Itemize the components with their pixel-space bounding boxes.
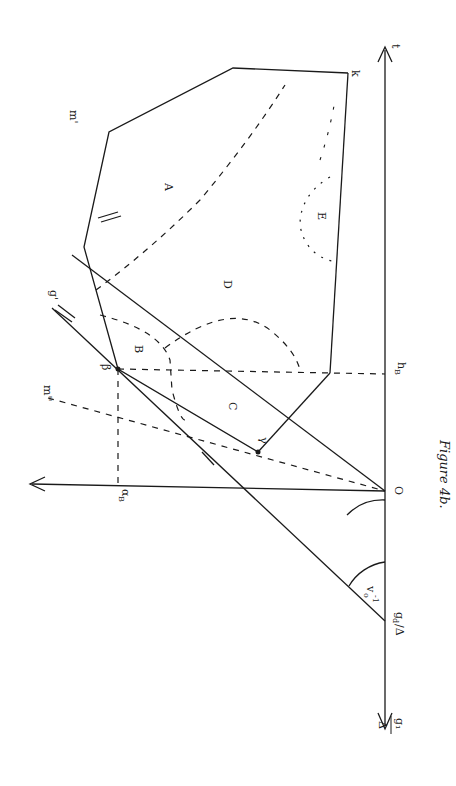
svg-text:d: d <box>391 618 400 623</box>
region-C-D-boundary <box>165 318 300 370</box>
beta-point <box>116 367 121 372</box>
region-A-label: A <box>162 182 175 192</box>
gd-label: g d /Δ <box>391 612 406 636</box>
hB-label: h B <box>393 362 408 375</box>
alpha-axis <box>30 477 385 491</box>
figure-caption: Figure 4b. <box>437 439 452 509</box>
svg-text:B: B <box>117 496 126 502</box>
beta-to-hB-dashed <box>118 369 385 374</box>
g-prime-label: g' <box>47 290 60 300</box>
svg-text:B: B <box>393 369 402 375</box>
g-prime-line <box>52 308 385 621</box>
m-double-prime-line <box>48 398 385 491</box>
k-label: k <box>349 70 362 77</box>
right-edge <box>330 73 348 373</box>
m-prime-label: m' <box>67 110 80 123</box>
gamma-label: γ <box>257 437 270 444</box>
m-double-prime-label: m'' <box>41 385 54 401</box>
svg-text:/Δ: /Δ <box>393 624 406 636</box>
angle-vo-label: v o -1 <box>362 585 380 603</box>
angle-arc-origin <box>347 500 385 515</box>
t-axis-label: t <box>389 44 402 49</box>
region-C-label: C <box>226 402 239 410</box>
feasible-region-outline <box>84 68 348 452</box>
angle-arc-gd <box>349 562 385 586</box>
origin-label: O <box>392 486 405 495</box>
svg-text:o: o <box>362 593 371 598</box>
region-E-label: E <box>315 212 328 220</box>
svg-text:-1: -1 <box>371 595 380 603</box>
beta-label: β <box>99 364 112 370</box>
region-D-label: D <box>221 280 234 289</box>
vertical-axis <box>378 47 392 729</box>
svg-text:Δ: Δ <box>376 721 389 729</box>
gamma-point <box>256 450 261 455</box>
region-A-D-boundary <box>96 85 285 290</box>
figure-4b: t k m' g' m'' A B C D E β γ h B O α B v … <box>0 0 456 786</box>
alphaB-label: α B <box>117 489 132 502</box>
region-B-label: B <box>132 345 145 353</box>
svg-text:g₁: g₁ <box>393 718 406 729</box>
svg-text:v: v <box>364 585 377 593</box>
